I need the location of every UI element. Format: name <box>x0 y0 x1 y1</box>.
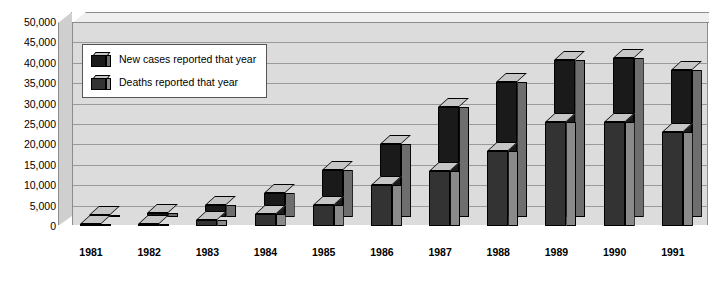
plot-floor <box>58 225 709 241</box>
bar-deaths <box>196 220 217 226</box>
deaths-swatch-icon <box>91 75 111 90</box>
bar-deaths <box>662 132 683 226</box>
bar-deaths <box>604 122 625 226</box>
x-axis-label: 1991 <box>650 246 696 258</box>
bar-deaths <box>80 224 101 226</box>
bar-deaths <box>429 171 450 226</box>
bar-deaths <box>487 151 508 226</box>
y-axis-label: 0 <box>0 221 56 231</box>
y-axis-label: 30,000 <box>0 99 56 109</box>
x-axis-label: 1986 <box>359 246 405 258</box>
x-axis-label: 1988 <box>475 246 521 258</box>
x-axis-label: 1981 <box>68 246 114 258</box>
legend-label-deaths: Deaths reported that year <box>119 77 238 88</box>
x-axis-label: 1985 <box>301 246 347 258</box>
y-axis-label: 35,000 <box>0 78 56 88</box>
y-axis-label: 25,000 <box>0 119 56 129</box>
bar-deaths <box>545 122 566 226</box>
x-axis-label: 1983 <box>184 246 230 258</box>
cases-swatch-icon <box>91 52 111 67</box>
bar-deaths <box>371 185 392 226</box>
legend-item-deaths: Deaths reported that year <box>91 74 256 91</box>
y-axis-label: 5,000 <box>0 201 56 211</box>
y-axis-label: 10,000 <box>0 180 56 190</box>
legend-label-new-cases: New cases reported that year <box>119 54 256 65</box>
y-axis-label: 15,000 <box>0 160 56 170</box>
y-axis-label: 20,000 <box>0 139 56 149</box>
x-axis-label: 1989 <box>533 246 579 258</box>
bar-deaths <box>313 205 334 226</box>
x-axis-label: 1987 <box>417 246 463 258</box>
legend-item-new-cases: New cases reported that year <box>91 51 256 68</box>
bar-chart: 50,00045,00040,00035,00030,00025,00020,0… <box>0 0 717 281</box>
bar-deaths <box>138 224 159 226</box>
chart-legend: New cases reported that year Deaths repo… <box>82 44 267 98</box>
y-axis-label: 50,000 <box>0 17 56 27</box>
bar-deaths <box>255 214 276 226</box>
x-axis-label: 1990 <box>592 246 638 258</box>
x-axis: 1981198219831984198519861987198819891990… <box>58 246 711 266</box>
x-axis-label: 1984 <box>243 246 289 258</box>
x-axis-label: 1982 <box>126 246 172 258</box>
y-axis: 50,00045,00040,00035,00030,00025,00020,0… <box>0 0 56 281</box>
y-axis-label: 45,000 <box>0 37 56 47</box>
y-axis-label: 40,000 <box>0 58 56 68</box>
